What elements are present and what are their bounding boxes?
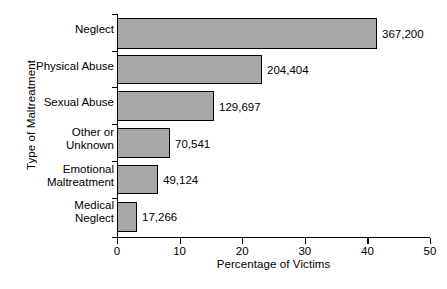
bar-value-label: 367,200 (382, 28, 424, 40)
y-axis-tick (112, 51, 118, 52)
y-axis-tick (112, 14, 118, 15)
x-axis-tick (180, 238, 181, 244)
y-axis-tick (112, 124, 118, 125)
bar-value-label: 17,266 (142, 211, 177, 223)
x-axis-tick (242, 238, 243, 244)
category-label-neglect: Neglect (12, 23, 118, 36)
bar-neglect (117, 18, 377, 49)
x-axis-tick (367, 238, 368, 244)
x-axis-tick-label: 20 (222, 245, 262, 257)
bar-chart: Type of Maltreatment Neglect Physical Ab… (0, 0, 447, 289)
category-label-sexual-abuse: Sexual Abuse (12, 96, 118, 109)
bar-other-or-unknown (117, 128, 170, 158)
x-axis-tick (430, 238, 431, 244)
category-label-medical-neglect: Medical Neglect (12, 199, 118, 224)
x-axis-tick-label: 30 (285, 245, 325, 257)
bar-value-label: 204,404 (267, 64, 309, 76)
bar-value-label: 70,541 (175, 138, 210, 150)
x-axis-tick-label: 50 (410, 245, 447, 257)
x-axis-tick (305, 238, 306, 244)
bar-value-label: 129,697 (219, 101, 261, 113)
bar-value-label: 49,124 (163, 174, 198, 186)
bar-medical-neglect (117, 202, 137, 232)
x-axis-tick (117, 238, 118, 244)
category-label-physical-abuse: Physical Abuse (12, 60, 118, 73)
y-axis-tick (112, 87, 118, 88)
plot-area: 367,200 204,404 129,697 70,541 49,124 17… (117, 14, 430, 238)
x-axis-line (117, 237, 430, 238)
bar-sexual-abuse (117, 91, 214, 121)
y-axis-tick (112, 161, 118, 162)
bar-emotional-maltreatment (117, 165, 158, 194)
x-axis-tick-label: 10 (160, 245, 200, 257)
bar-physical-abuse (117, 55, 262, 84)
x-axis-tick-label: 40 (347, 245, 387, 257)
x-axis-title: Percentage of Victims (117, 258, 430, 270)
y-axis-tick (112, 198, 118, 199)
category-label-other-or-unknown: Other or Unknown (12, 126, 118, 151)
x-axis-tick-label: 0 (97, 245, 137, 257)
category-label-emotional-maltreatment: Emotional Maltreatment (12, 163, 118, 188)
category-label-column: Neglect Physical Abuse Sexual Abuse Othe… (8, 0, 118, 240)
